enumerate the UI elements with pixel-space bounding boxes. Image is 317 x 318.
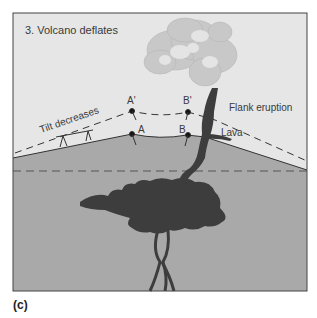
diagram-title: 3. Volcano deflates [25, 24, 118, 36]
lava-label: Lava [221, 127, 243, 138]
panel-label: (c) [13, 298, 28, 312]
point-a-label: A [138, 124, 145, 135]
point-b-label: B [179, 124, 186, 135]
point-b-prime-label: B' [183, 95, 192, 106]
flank-eruption-label: Flank eruption [229, 102, 292, 113]
point-a-prime-label: A' [127, 95, 136, 106]
volcano-deflation-diagram: 3. Volcano deflates Tilt decreases A' B'… [0, 0, 317, 318]
